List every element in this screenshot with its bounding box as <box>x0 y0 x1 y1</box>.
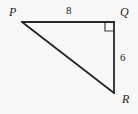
side-length-label-qr: 6 <box>120 52 126 63</box>
geometry-figure: P Q R 8 6 <box>0 0 138 114</box>
vertex-label-q: Q <box>120 6 129 18</box>
triangle-drawing <box>0 0 138 114</box>
side-length-label-pq: 8 <box>66 5 72 16</box>
vertex-label-r: R <box>122 93 129 105</box>
side-pr-hypotenuse-line <box>22 22 114 93</box>
right-angle-marker-icon <box>105 23 113 31</box>
vertex-label-p: P <box>9 6 16 18</box>
